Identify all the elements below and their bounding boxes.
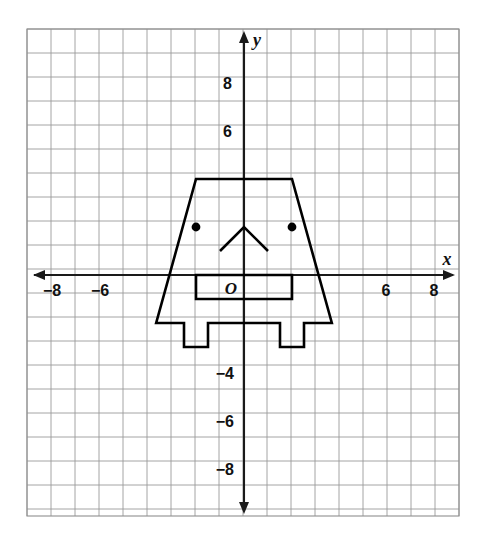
y-tick-label-neg6: −6 [216, 413, 234, 430]
y-tick-label-neg8: −8 [216, 461, 234, 478]
x-tick-label-neg6: −6 [91, 282, 109, 299]
x-tick-label-neg8: −8 [43, 282, 61, 299]
x-tick-labels: −8 −6 6 8 [43, 282, 439, 299]
y-tick-label-6: 6 [223, 123, 232, 140]
x-axis-left-arrow [33, 270, 45, 280]
x-tick-label-6: 6 [382, 282, 391, 299]
y-tick-label-neg4: −4 [216, 365, 234, 382]
x-tick-label-8: 8 [430, 282, 439, 299]
x-axis-label: x [442, 249, 452, 269]
y-axis-label: y [251, 30, 262, 50]
origin-label: O [225, 279, 237, 298]
x-axis-right-arrow [443, 270, 455, 280]
axes [33, 31, 455, 514]
y-axis-top-arrow [239, 31, 249, 43]
left-eye-dot [192, 223, 201, 232]
y-axis-bottom-arrow [239, 502, 249, 514]
coordinate-plane-figure: y x −8 −6 6 8 8 6 −4 −6 −8 O [0, 0, 480, 540]
y-tick-labels: 8 6 −4 −6 −8 [216, 75, 234, 478]
y-tick-label-8: 8 [223, 75, 232, 92]
right-eye-dot [288, 223, 297, 232]
coordinate-plane-svg: y x −8 −6 6 8 8 6 −4 −6 −8 O [0, 0, 480, 540]
